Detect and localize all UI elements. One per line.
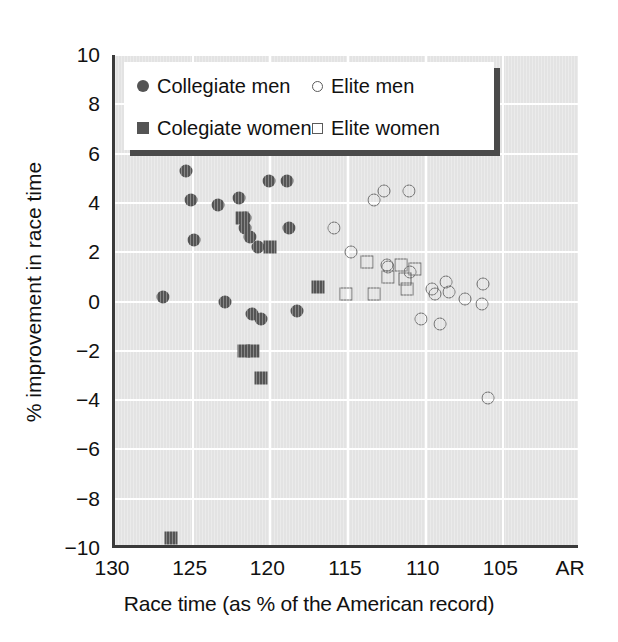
y-tick-label: 4 bbox=[0, 191, 112, 215]
scatter-plot-figure: Collegiate men Elite men Colegiate women… bbox=[0, 0, 618, 642]
legend-entry-elite-men: Elite men bbox=[312, 75, 507, 98]
colegiate-women-marker-icon bbox=[137, 122, 149, 134]
elite-men-marker-icon bbox=[312, 81, 323, 92]
legend-entry-elite-women: Elite women bbox=[312, 117, 507, 140]
y-tick-label: −6 bbox=[0, 437, 112, 461]
data-point bbox=[219, 295, 232, 308]
data-point bbox=[377, 184, 390, 197]
x-axis-title: Race time (as % of the American record) bbox=[0, 592, 618, 616]
data-point bbox=[233, 191, 246, 204]
data-point bbox=[157, 290, 170, 303]
data-point bbox=[382, 270, 395, 283]
legend-entry-collegiate-men: Collegiate men bbox=[137, 75, 312, 98]
data-point bbox=[262, 174, 275, 187]
data-point bbox=[236, 211, 249, 224]
x-tick-label: 120 bbox=[250, 556, 285, 580]
data-point bbox=[180, 164, 193, 177]
data-point bbox=[368, 288, 381, 301]
y-tick-label: −4 bbox=[0, 388, 112, 412]
data-point bbox=[477, 278, 490, 291]
x-tick-label: 105 bbox=[483, 556, 518, 580]
data-point bbox=[475, 297, 488, 310]
legend-label: Elite women bbox=[331, 117, 440, 140]
legend: Collegiate men Elite men Colegiate women… bbox=[124, 62, 494, 150]
data-point bbox=[428, 288, 441, 301]
data-point bbox=[415, 312, 428, 325]
data-point bbox=[394, 258, 407, 271]
y-tick-label: 0 bbox=[0, 290, 112, 314]
y-tick-label: −2 bbox=[0, 339, 112, 363]
x-tick-label: 125 bbox=[172, 556, 207, 580]
data-point bbox=[345, 246, 358, 259]
y-tick-label: 2 bbox=[0, 240, 112, 264]
legend-label: Collegiate men bbox=[157, 75, 290, 98]
data-point bbox=[458, 293, 471, 306]
y-tick-label: 6 bbox=[0, 142, 112, 166]
data-point bbox=[164, 532, 177, 545]
legend-label: Colegiate women bbox=[157, 117, 312, 140]
data-point bbox=[188, 233, 201, 246]
data-point bbox=[211, 199, 224, 212]
y-tick-label: −8 bbox=[0, 487, 112, 511]
y-axis-title: % improvement in race time bbox=[22, 62, 46, 522]
data-point bbox=[401, 283, 414, 296]
elite-women-marker-icon bbox=[312, 123, 323, 134]
data-point bbox=[290, 305, 303, 318]
legend-entry-colegiate-women: Colegiate women bbox=[137, 117, 312, 140]
x-tick-label-ar: AR bbox=[555, 556, 584, 580]
data-point bbox=[481, 391, 494, 404]
x-tick-label: 115 bbox=[328, 556, 361, 580]
x-tick-label: 130 bbox=[94, 556, 129, 580]
x-tick-label: 110 bbox=[406, 556, 439, 580]
x-axis-tick-labels: 130125120115110105AR bbox=[0, 556, 618, 586]
data-point bbox=[255, 312, 268, 325]
data-point bbox=[282, 221, 295, 234]
data-point bbox=[402, 184, 415, 197]
data-point bbox=[408, 263, 421, 276]
y-tick-label: 10 bbox=[0, 43, 112, 67]
data-point bbox=[328, 221, 341, 234]
data-point bbox=[247, 344, 260, 357]
data-point bbox=[185, 194, 198, 207]
y-tick-label: 8 bbox=[0, 92, 112, 116]
data-point bbox=[442, 285, 455, 298]
data-point bbox=[251, 241, 264, 254]
data-point bbox=[312, 280, 325, 293]
data-point bbox=[255, 371, 268, 384]
data-point bbox=[360, 256, 373, 269]
data-point bbox=[340, 288, 353, 301]
data-point bbox=[433, 317, 446, 330]
data-point bbox=[264, 241, 277, 254]
legend-label: Elite men bbox=[331, 75, 414, 98]
collegiate-men-marker-icon bbox=[137, 80, 149, 92]
data-point bbox=[281, 174, 294, 187]
